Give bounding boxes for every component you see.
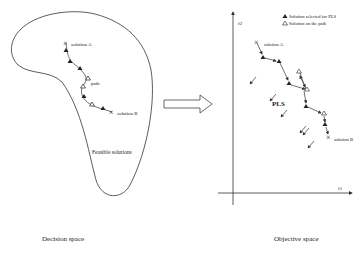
decision-space-panel: × × solution A path solution B Feasible … xyxy=(11,12,152,243)
path-solution-icon xyxy=(297,69,302,73)
f1-axis-label: f1 xyxy=(338,186,343,191)
objective-solution-a-label: solution A xyxy=(264,42,284,47)
dominance-arrow-icon xyxy=(308,141,314,148)
transform-arrow-icon xyxy=(164,95,212,113)
legend-filled-triangle-icon xyxy=(283,14,288,18)
dominance-arrow-icon xyxy=(303,128,309,135)
path-solution-icon xyxy=(81,84,86,88)
decision-path-label: path xyxy=(91,81,100,86)
selected-solution-icon xyxy=(68,59,73,63)
f2-axis-label: f2 xyxy=(238,21,243,26)
diagram-canvas: × × solution A path solution B Feasible … xyxy=(0,0,360,254)
selected-solution-icon xyxy=(261,55,266,59)
legend-item-selected: Solution selected for PLS xyxy=(289,14,337,19)
selected-solution-icon xyxy=(277,59,282,63)
pls-label: PLS xyxy=(272,100,285,108)
decision-space-caption: Decision space xyxy=(42,235,84,243)
objective-space-panel: f2 f1 Solution selected for PLS Solution… xyxy=(218,12,353,243)
legend-item-path: Solution on the path xyxy=(289,21,327,26)
objective-path xyxy=(257,43,328,134)
objective-space-caption: Objective space xyxy=(274,235,319,243)
decision-solution-a-label: solution A xyxy=(71,42,92,47)
solution-a-marker-icon: × xyxy=(63,39,68,48)
selected-solution-icon xyxy=(64,48,69,52)
selected-solution-icon xyxy=(323,122,328,126)
selected-solution-icon xyxy=(287,81,292,85)
legend: Solution selected for PLS Solution on th… xyxy=(283,14,337,26)
pls-direction-arrows xyxy=(250,77,314,148)
selected-solution-icon xyxy=(304,104,309,108)
legend-hollow-triangle-icon xyxy=(283,21,288,25)
dominance-arrow-icon xyxy=(300,126,306,133)
path-solution-icon xyxy=(322,111,327,115)
decision-solution-b-label: solution B xyxy=(117,111,138,116)
feasible-region-outline xyxy=(11,12,152,196)
solution-b-marker-icon: × xyxy=(109,108,114,117)
dominance-arrow-icon xyxy=(250,77,256,84)
objective-solution-b-label: solution B xyxy=(334,137,353,142)
dominance-arrow-icon xyxy=(281,110,287,117)
objective-solution-a-icon: × xyxy=(254,38,259,47)
objective-solution-b-icon: × xyxy=(326,133,331,142)
feasible-solutions-label: Feasible solutions xyxy=(92,149,132,155)
selected-solution-icon xyxy=(101,106,106,110)
